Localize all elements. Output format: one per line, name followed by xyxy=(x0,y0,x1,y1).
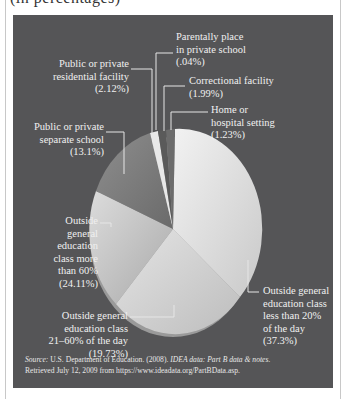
label-text: less than 20% xyxy=(263,310,329,323)
label-text: than 60% xyxy=(13,265,98,278)
label-more-60: Outside general education class more tha… xyxy=(13,215,98,290)
label-text: residential facility xyxy=(23,71,129,84)
chart-subtitle-cutoff: (in percentages) xyxy=(10,0,121,7)
label-text: Home or xyxy=(211,104,275,117)
label-text: in private school xyxy=(176,44,246,57)
label-separate-school: Public or private separate school (13.1%… xyxy=(13,121,104,159)
label-text: hospital setting xyxy=(211,117,275,130)
label-text: Outside general xyxy=(263,285,329,298)
label-text: general xyxy=(13,228,98,241)
chart-panel: Parentally place in private school (.04%… xyxy=(13,15,333,388)
label-value: (13.1%) xyxy=(13,146,104,159)
label-text: Outside xyxy=(13,215,98,228)
label-text: Correctional facility xyxy=(189,75,274,88)
label-text: Public or private xyxy=(13,121,104,134)
label-text: 21–60% of the day xyxy=(13,335,128,348)
label-value: (.04%) xyxy=(176,56,246,69)
label-value: (37.3%) xyxy=(263,335,329,348)
label-value: (2.12%) xyxy=(23,83,129,96)
source-label: Source: xyxy=(25,355,48,364)
label-21-60: Outside general education class 21–60% o… xyxy=(13,310,128,360)
label-text: Outside general xyxy=(13,310,128,323)
label-residential: Public or private residential facility (… xyxy=(23,58,129,96)
page-border-right xyxy=(340,0,341,399)
page-border-left xyxy=(5,0,6,399)
label-text: Parentally place xyxy=(176,31,246,44)
label-less-20: Outside general education class less tha… xyxy=(263,285,329,348)
label-text: education class xyxy=(263,298,329,311)
label-value: (1.23%) xyxy=(211,129,275,142)
source-text: U.S. Department of Education. (2008). xyxy=(48,355,170,364)
label-text: class more xyxy=(13,253,98,266)
label-correctional: Correctional facility (1.99%) xyxy=(189,75,274,100)
label-home: Home or hospital setting (1.23%) xyxy=(211,104,275,142)
label-text: education xyxy=(13,240,98,253)
source-title: IDEA data: Part B data & notes. xyxy=(170,355,270,364)
source-retrieved: Retrieved July 12, 2009 from https://www… xyxy=(25,366,240,375)
label-parental: Parentally place in private school (.04%… xyxy=(176,31,246,69)
label-text: education class xyxy=(13,323,128,336)
label-text: of the day xyxy=(263,323,329,336)
source-note: Source: U.S. Department of Education. (2… xyxy=(25,354,330,376)
label-value: (1.99%) xyxy=(189,88,274,101)
label-value: (24.11%) xyxy=(13,278,98,291)
label-text: Public or private xyxy=(23,58,129,71)
label-text: separate school xyxy=(13,134,104,147)
